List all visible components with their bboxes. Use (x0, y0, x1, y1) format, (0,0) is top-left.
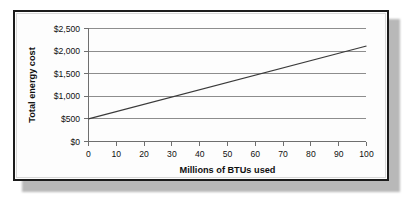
x-tick-label-100: 100 (359, 149, 374, 159)
x-tick-label-70: 70 (278, 149, 288, 159)
x-tick-label-80: 80 (306, 149, 316, 159)
x-tick-label-40: 40 (195, 149, 205, 159)
y-axis-title: Total energy cost (27, 47, 37, 122)
x-tick-label-10: 10 (112, 149, 122, 159)
y-tick-label-500: $500 (61, 114, 80, 124)
x-tick-label-50: 50 (223, 149, 233, 159)
chart-figure-frame: $2,500 $2,000 $1,500 $1,000 $500 $0 0 10… (13, 10, 389, 181)
y-tick-labels: $2,500 $2,000 $1,500 $1,000 $500 $0 (54, 24, 81, 147)
y-gridlines (88, 29, 366, 119)
y-tick-marks (84, 29, 88, 142)
x-tick-label-20: 20 (139, 149, 149, 159)
y-tick-label-0: $0 (70, 137, 80, 147)
x-tick-label-30: 30 (167, 149, 177, 159)
x-axis-title: Millions of BTUs used (180, 165, 276, 175)
y-tick-label-1000: $1,000 (54, 91, 81, 101)
series-line-total-energy-cost (89, 46, 367, 119)
chart-plot-wrapper: $2,500 $2,000 $1,500 $1,000 $500 $0 0 10… (15, 12, 387, 179)
x-tick-label-0: 0 (86, 149, 91, 159)
screenshot-canvas: $2,500 $2,000 $1,500 $1,000 $500 $0 0 10… (0, 0, 411, 197)
x-tick-marks (89, 142, 367, 147)
y-tick-label-2000: $2,000 (54, 46, 81, 56)
x-tick-labels: 0 10 20 30 40 50 60 70 80 90 100 (86, 149, 374, 159)
x-tick-label-90: 90 (334, 149, 344, 159)
x-tick-label-60: 60 (251, 149, 261, 159)
y-tick-label-2500: $2,500 (54, 24, 81, 34)
line-chart: $2,500 $2,000 $1,500 $1,000 $500 $0 0 10… (15, 12, 387, 179)
y-tick-label-1500: $1,500 (54, 69, 81, 79)
